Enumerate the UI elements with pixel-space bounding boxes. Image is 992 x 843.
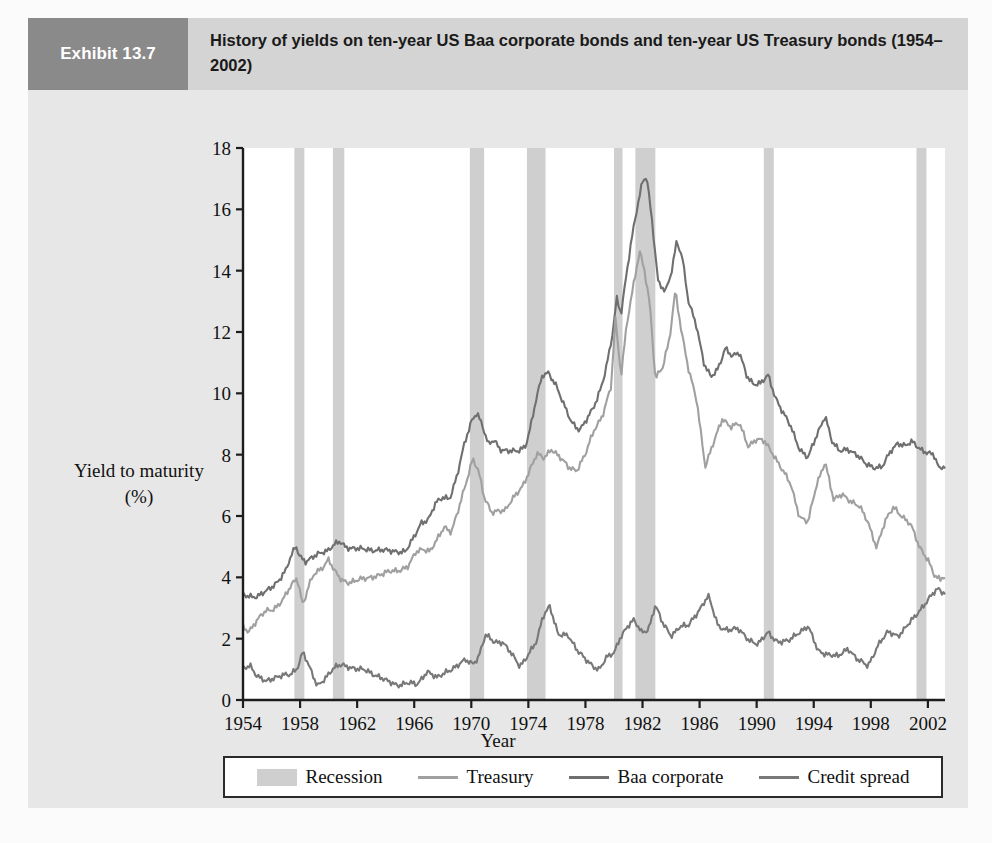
y-tick-label-12: 12 <box>212 322 231 343</box>
x-tick-label-1990: 1990 <box>738 713 776 730</box>
x-tick-label-2002: 2002 <box>909 713 947 730</box>
baa-corporate-line-icon <box>569 776 609 779</box>
x-tick-label-1966: 1966 <box>395 713 433 730</box>
treasury-line-icon <box>418 776 458 779</box>
legend-label-treasury: Treasury <box>467 766 534 788</box>
legend-label-credit-spread: Credit spread <box>808 766 910 788</box>
legend-label-recession: Recession <box>306 766 383 788</box>
credit-spread-line-icon <box>759 776 799 779</box>
exhibit-title: History of yields on ten-year US Baa cor… <box>188 18 968 90</box>
y-tick-label-6: 6 <box>222 506 232 527</box>
recession-swatch-icon <box>257 769 297 786</box>
legend-label-baa-corporate: Baa corporate <box>618 766 724 788</box>
x-tick-label-1962: 1962 <box>338 713 376 730</box>
exhibit-header: Exhibit 13.7 History of yields on ten-ye… <box>28 18 968 90</box>
y-tick-label-0: 0 <box>222 690 232 711</box>
x-tick-label-1998: 1998 <box>852 713 890 730</box>
legend-item-treasury[interactable]: Treasury <box>418 766 534 788</box>
x-tick-label-1970: 1970 <box>452 713 490 730</box>
y-tick-label-16: 16 <box>212 199 231 220</box>
y-tick-label-18: 18 <box>212 138 231 159</box>
y-tick-label-4: 4 <box>222 567 232 588</box>
x-tick-label-1978: 1978 <box>566 713 604 730</box>
plot-background <box>243 148 945 700</box>
recession-band-6 <box>764 148 774 700</box>
x-tick-label-1986: 1986 <box>681 713 719 730</box>
recession-band-7 <box>916 148 926 700</box>
recession-band-4 <box>614 148 623 700</box>
x-tick-label-1982: 1982 <box>624 713 662 730</box>
recession-band-0 <box>294 148 304 700</box>
legend-item-credit-spread[interactable]: Credit spread <box>759 766 910 788</box>
chart-container: Yield to maturity (%) 024681012141618195… <box>28 90 968 808</box>
y-tick-label-10: 10 <box>212 383 231 404</box>
x-axis-title: Year <box>28 730 968 752</box>
chart-legend: Recession Treasury Baa corporate Credit … <box>223 756 943 798</box>
x-tick-label-1974: 1974 <box>509 713 548 730</box>
yield-history-line-chart: 0246810121416181954195819621966197019741… <box>28 90 968 730</box>
x-tick-label-1958: 1958 <box>281 713 319 730</box>
legend-item-recession[interactable]: Recession <box>257 766 383 788</box>
exhibit-number-label: Exhibit 13.7 <box>28 18 188 90</box>
page-background: Exhibit 13.7 History of yields on ten-ye… <box>0 0 992 843</box>
legend-item-baa-corporate[interactable]: Baa corporate <box>569 766 724 788</box>
x-tick-label-1954: 1954 <box>224 713 263 730</box>
recession-band-1 <box>333 148 344 700</box>
y-tick-label-8: 8 <box>222 445 232 466</box>
x-tick-label-1994: 1994 <box>795 713 834 730</box>
exhibit-panel: Exhibit 13.7 History of yields on ten-ye… <box>28 18 968 808</box>
y-tick-label-2: 2 <box>222 629 232 650</box>
y-tick-label-14: 14 <box>212 261 232 282</box>
